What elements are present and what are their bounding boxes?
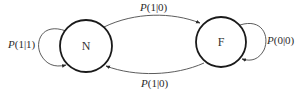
edge-label-prefix: P [140,1,147,13]
edge-label-args: (1|0) [148,77,169,89]
edge-label-n-to-n: P(1|1) [8,39,35,50]
edge-label-f-to-n: P(1|0) [141,78,168,89]
edge-label-args: (1|1) [15,38,36,50]
edge-label-args: (1|0) [147,1,168,13]
edge-n-to-f [104,15,200,27]
edge-label-prefix: P [267,34,274,46]
edge-label-n-to-f: P(1|0) [140,2,167,13]
edge-label-prefix: P [8,38,15,50]
edge-f-to-n [106,63,204,74]
node-n-label: N [82,40,91,52]
edge-label-prefix: P [141,77,148,89]
edge-label-args: (0|0) [274,34,295,46]
node-f-label: F [218,36,225,48]
edge-label-f-to-f: P(0|0) [267,35,294,46]
